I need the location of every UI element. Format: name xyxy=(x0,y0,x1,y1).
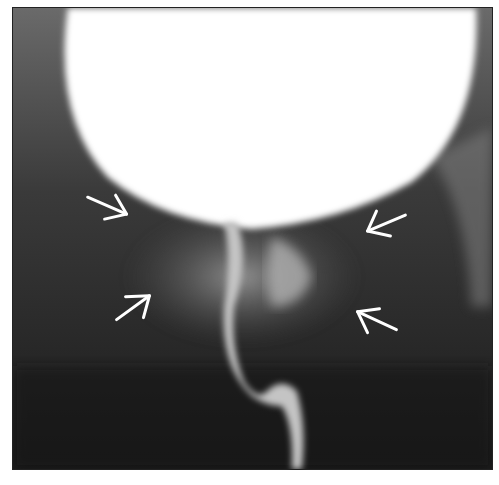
radiograph-frame xyxy=(12,7,493,470)
arrow-lower-left-icon xyxy=(117,296,150,320)
arrow-lower-right-icon xyxy=(358,309,397,333)
arrow-upper-left-icon xyxy=(88,195,127,219)
arrows-overlay xyxy=(13,8,492,469)
arrow-upper-right-icon xyxy=(368,211,406,236)
